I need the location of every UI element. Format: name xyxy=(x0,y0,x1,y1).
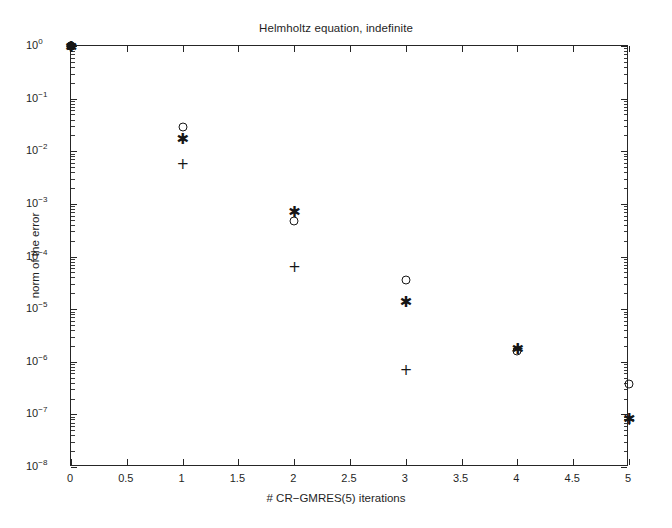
plot-axes-frame: ✱✱✱✱✱✱++++++ xyxy=(70,45,628,466)
data-point-circle-series-x3 xyxy=(401,276,410,285)
data-point-asterisk-series-x1: ✱ xyxy=(177,132,189,144)
data-point-plus-series-x1: + xyxy=(177,157,189,169)
data-point-plus-series-x5: + xyxy=(623,413,635,425)
figure-canvas: Helmholtz equation, indefinite ✱✱✱✱✱✱+++… xyxy=(0,0,672,528)
y-tick-8 xyxy=(71,467,77,468)
x-tick-label-2.5: 2.5 xyxy=(341,472,356,484)
data-point-asterisk-series-x2: ✱ xyxy=(288,205,300,217)
x-tick-label-0: 0 xyxy=(67,472,73,484)
data-point-plus-series-x2: + xyxy=(288,260,300,272)
x-tick-label-2: 2 xyxy=(290,472,296,484)
x-tick-label-1.5: 1.5 xyxy=(230,472,245,484)
page-title: Helmholtz equation, indefinite xyxy=(0,22,672,34)
data-point-circle-series-x5 xyxy=(625,380,634,389)
data-point-asterisk-series-x3: ✱ xyxy=(400,295,412,307)
x-tick-label-5: 5 xyxy=(625,472,631,484)
y-tick-right-8 xyxy=(621,467,627,468)
data-marker-layer: ✱✱✱✱✱✱++++++ xyxy=(71,46,627,465)
x-tick-label-3: 3 xyxy=(402,472,408,484)
x-axis-label: # CR−GMRES(5) iterations xyxy=(0,492,672,504)
x-tick-label-4.5: 4.5 xyxy=(565,472,580,484)
x-tick-top-5 xyxy=(629,46,630,52)
x-tick-5 xyxy=(629,459,630,465)
x-tick-label-1: 1 xyxy=(179,472,185,484)
x-tick-label-3.5: 3.5 xyxy=(453,472,468,484)
y-axis-label: norm of the error xyxy=(26,45,44,466)
data-point-origin-overlap xyxy=(67,42,76,51)
data-point-plus-series-x3: + xyxy=(400,363,412,375)
x-tick-label-4: 4 xyxy=(513,472,519,484)
data-point-plus-series-x4: + xyxy=(511,342,523,354)
x-tick-label-0.5: 0.5 xyxy=(118,472,133,484)
